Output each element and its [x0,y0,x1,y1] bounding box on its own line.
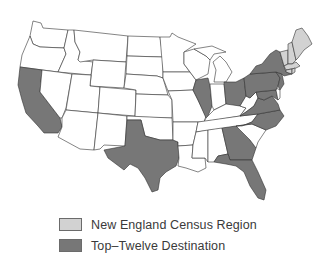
legend-swatch-light-gray [59,218,82,231]
state-maine [292,28,312,60]
state-florida [214,154,266,200]
state-colorado [98,87,136,116]
map-legend: New England Census Region Top–Twelve Des… [59,214,257,256]
state-wyoming [90,60,126,88]
state-kansas [135,94,172,118]
state-rhode-island [292,68,295,74]
state-new-mexico [94,113,127,150]
legend-label: New England Census Region [91,218,257,232]
legend-item-new-england: New England Census Region [59,214,257,235]
legend-item-top-twelve: Top–Twelve Destination [59,235,257,256]
state-montana [74,30,128,62]
state-washington [30,21,68,48]
us-states-map [0,0,322,210]
legend-swatch-dark-gray [59,239,82,252]
state-iowa [163,72,196,91]
state-arizona [58,110,98,150]
state-north-dakota [127,36,163,57]
legend-label: Top–Twelve Destination [91,239,225,253]
